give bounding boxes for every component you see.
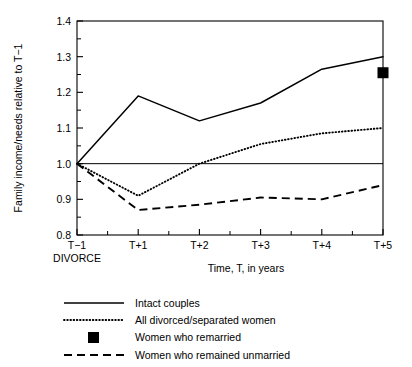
legend-label-all-divorced-separated-women: All divorced/separated women bbox=[135, 314, 276, 326]
marker-women-who-remarried bbox=[378, 67, 389, 78]
y-tick-label-1-0: 1.0 bbox=[56, 158, 71, 170]
income-needs-line-chart: 1.4 1.3 1.2 1.1 1.0 0.9 0.8 T−1 T+1 T+2 … bbox=[0, 0, 412, 367]
legend-label-women-remained-unmarried: Women who remained unmarried bbox=[135, 349, 290, 361]
y-tick-label-1-4: 1.4 bbox=[56, 15, 71, 27]
x-tick-label-t-plus-1: T+1 bbox=[129, 239, 148, 251]
chart-figure: 1.4 1.3 1.2 1.1 1.0 0.9 0.8 T−1 T+1 T+2 … bbox=[0, 0, 412, 367]
y-axis-title: Family income/needs relative to T−1 bbox=[12, 43, 24, 212]
legend-sample-women-who-remarried bbox=[88, 332, 99, 343]
legend-label-women-who-remarried: Women who remarried bbox=[135, 331, 241, 343]
x-axis-title: Time, T, in years bbox=[208, 262, 284, 274]
x-axis-minor-ticks bbox=[108, 231, 353, 235]
x-tick-label-t-minus-1: T−1 bbox=[68, 239, 87, 251]
y-tick-label-0-9: 0.9 bbox=[56, 193, 71, 205]
y-tick-label-1-1: 1.1 bbox=[56, 122, 71, 134]
x-tick-label-t-plus-4: T+4 bbox=[313, 239, 332, 251]
legend-label-intact-couples: Intact couples bbox=[135, 297, 200, 309]
plot-frame bbox=[77, 21, 383, 235]
y-axis-major-ticks bbox=[77, 21, 83, 235]
x-tick-label-t-plus-5: T+5 bbox=[374, 239, 393, 251]
y-tick-label-1-2: 1.2 bbox=[56, 86, 71, 98]
y-tick-label-1-3: 1.3 bbox=[56, 51, 71, 63]
x-axis-divorce-label: DIVORCE bbox=[53, 252, 101, 264]
x-tick-label-t-plus-2: T+2 bbox=[190, 239, 209, 251]
x-tick-label-t-plus-3: T+3 bbox=[251, 239, 270, 251]
chart-legend: Intact couples All divorced/separated wo… bbox=[64, 297, 290, 361]
series-all-divorced-separated-women bbox=[77, 128, 383, 196]
series-intact-couples bbox=[77, 57, 383, 164]
